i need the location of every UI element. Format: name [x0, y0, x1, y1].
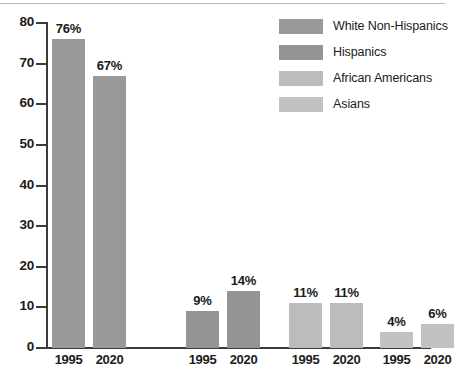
legend-swatch	[279, 97, 323, 112]
legend-item: Asians	[279, 91, 445, 117]
legend: White Non-HispanicsHispanicsAfrican Amer…	[279, 13, 445, 117]
x-axis-tick-label: 2020	[219, 352, 268, 367]
bar	[227, 291, 260, 348]
bar	[330, 303, 363, 348]
x-axis-tick-label: 2020	[85, 352, 134, 367]
bar-value-label: 67%	[85, 58, 134, 73]
bar	[289, 303, 322, 348]
legend-label: White Non-Hispanics	[333, 19, 448, 33]
legend-item: Hispanics	[279, 39, 445, 65]
legend-label: Hispanics	[333, 45, 386, 59]
legend-swatch	[279, 19, 323, 34]
legend-label: Asians	[333, 97, 370, 111]
bar	[52, 39, 85, 348]
legend-item: African Americans	[279, 65, 445, 91]
legend-swatch	[279, 71, 323, 86]
legend-swatch	[279, 45, 323, 60]
x-axis-tick-label: 2020	[322, 352, 371, 367]
bar	[380, 332, 413, 348]
bar-value-label: 76%	[44, 21, 93, 36]
bar-value-label: 11%	[322, 285, 371, 300]
bar	[186, 311, 219, 348]
legend-label: African Americans	[333, 71, 432, 85]
bar	[93, 76, 126, 348]
x-axis-tick-label: 2020	[413, 352, 458, 367]
bar-value-label: 6%	[413, 306, 458, 321]
bar-value-label: 9%	[178, 293, 227, 308]
bar-value-label: 14%	[219, 273, 268, 288]
legend-item: White Non-Hispanics	[279, 13, 445, 39]
bar	[421, 324, 454, 348]
